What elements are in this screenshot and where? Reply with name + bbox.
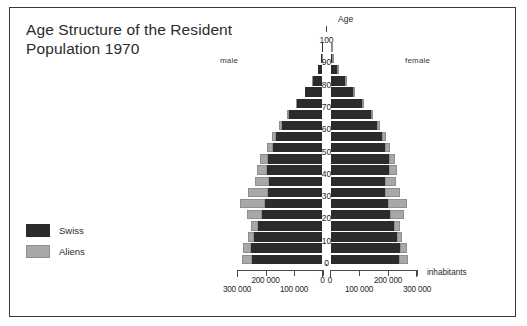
x-axis-tick-label: 100 000	[268, 285, 320, 294]
bar-segment-aliens-female	[385, 177, 396, 186]
table-row	[255, 177, 323, 186]
age-axis-tick: 80	[317, 80, 337, 90]
bar-segment-swiss-male	[251, 243, 323, 252]
table-row	[330, 199, 407, 208]
bar-segment-swiss-female	[330, 210, 390, 219]
bar-segment-swiss-female	[330, 255, 399, 264]
bar-segment-aliens-male	[243, 243, 251, 252]
x-axis-tick-label: 0	[304, 276, 356, 285]
legend-label-aliens: Aliens	[59, 246, 85, 257]
bar-segment-swiss-female	[330, 132, 382, 141]
x-axis-tick-label: 300 000	[211, 285, 263, 294]
x-axis-tick-label: 100 000	[333, 285, 385, 294]
table-row	[330, 143, 390, 152]
x-axis-tick	[359, 270, 360, 276]
bar-segment-swiss-male	[273, 143, 323, 152]
table-row	[330, 154, 395, 163]
x-axis-unit-label: inhabitants	[427, 268, 467, 277]
bar-segment-aliens-female	[389, 165, 397, 174]
table-row	[267, 143, 323, 152]
bar-segment-swiss-male	[252, 255, 322, 264]
bar-segment-swiss-female	[330, 243, 400, 252]
legend-swatch-aliens	[26, 245, 50, 258]
bar-segment-swiss-female	[330, 177, 385, 186]
age-axis-tick: 50	[317, 147, 337, 157]
bar-segment-swiss-female	[330, 154, 389, 163]
bar-segment-swiss-male	[265, 199, 323, 208]
table-row	[251, 221, 323, 230]
bar-segment-aliens-female	[399, 255, 408, 264]
table-row	[330, 232, 402, 241]
age-axis-tick: 20	[317, 213, 337, 223]
age-axis-tick: 60	[317, 124, 337, 134]
bar-segment-aliens-male	[260, 154, 268, 163]
bar-segment-aliens-female	[400, 243, 407, 252]
bar-segment-aliens-female	[394, 221, 401, 230]
x-axis-tick	[294, 270, 295, 276]
bar-segment-aliens-male	[242, 255, 252, 264]
bar-segment-swiss-female	[330, 199, 388, 208]
bar-segment-aliens-male	[257, 165, 268, 174]
bar-segment-swiss-male	[254, 232, 322, 241]
bar-segment-aliens-male	[248, 188, 268, 197]
legend-label-swiss: Swiss	[59, 225, 84, 236]
bar-segment-swiss-female	[330, 188, 385, 197]
bar-segment-aliens-female	[385, 143, 390, 152]
table-row	[330, 188, 400, 197]
legend-swatch-swiss	[26, 224, 50, 237]
x-axis-tick-label: 300 000	[391, 285, 443, 294]
bar-segment-swiss-male	[269, 177, 322, 186]
bar-segment-aliens-female	[382, 132, 386, 141]
bar-segment-aliens-female	[362, 99, 364, 108]
bar-segment-aliens-female	[377, 121, 380, 130]
bar-segment-aliens-male	[255, 177, 270, 186]
x-axis-tick	[237, 270, 238, 276]
age-axis-tick: 30	[317, 191, 337, 201]
table-row	[330, 243, 407, 252]
bar-segment-aliens-female	[385, 188, 400, 197]
bar-segment-aliens-male	[247, 210, 262, 219]
bar-segment-aliens-male	[251, 221, 258, 230]
table-row	[330, 177, 396, 186]
age-axis-tick: 70	[317, 102, 337, 112]
age-axis-tick: 100	[317, 35, 337, 45]
table-row	[272, 132, 322, 141]
bar-segment-swiss-male	[268, 154, 322, 163]
table-row	[240, 199, 322, 208]
table-row	[242, 255, 322, 264]
bar-segment-swiss-female	[330, 121, 377, 130]
table-row	[330, 221, 400, 230]
age-axis-tick: 40	[317, 169, 337, 179]
table-row	[257, 165, 323, 174]
x-axis-tick-label: 200 000	[240, 276, 292, 285]
bar-segment-aliens-female	[389, 154, 395, 163]
age-axis-tick: 0	[317, 258, 337, 268]
bar-segment-aliens-female	[388, 199, 407, 208]
table-row	[248, 188, 323, 197]
age-axis-tick: 90	[317, 57, 337, 67]
table-row	[330, 165, 397, 174]
bar-segment-aliens-male	[240, 199, 265, 208]
age-axis-tick: 10	[317, 236, 337, 246]
bar-segment-aliens-female	[397, 232, 403, 241]
table-row	[330, 255, 408, 264]
table-row	[248, 232, 322, 241]
bar-segment-swiss-female	[330, 165, 389, 174]
bar-segment-swiss-female	[330, 232, 397, 241]
table-row	[247, 210, 322, 219]
bar-segment-swiss-male	[258, 221, 323, 230]
table-row	[330, 132, 386, 141]
bar-segment-swiss-male	[268, 188, 323, 197]
table-row	[330, 210, 404, 219]
bar-segment-aliens-female	[337, 65, 339, 74]
bar-segment-aliens-female	[353, 87, 355, 96]
bar-segment-swiss-female	[330, 143, 385, 152]
table-row	[260, 154, 322, 163]
bar-segment-swiss-male	[267, 165, 322, 174]
bar-segment-swiss-male	[262, 210, 322, 219]
age-axis-title: Age	[338, 14, 353, 24]
table-row	[243, 243, 323, 252]
bar-segment-aliens-female	[371, 110, 373, 119]
table-row	[330, 121, 380, 130]
bar-segment-aliens-female	[345, 76, 347, 85]
